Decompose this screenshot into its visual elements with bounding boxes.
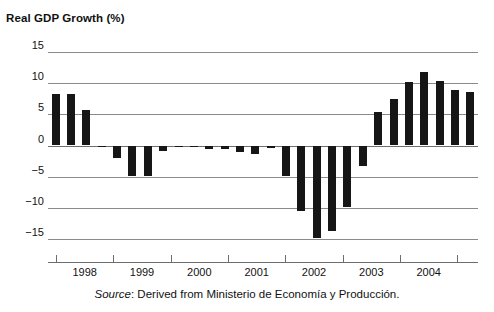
chart-title: Real GDP Growth (%) [6,12,125,24]
y-tick-label: −10 [0,195,44,207]
bar [144,146,152,177]
bar [236,146,244,153]
x-tick [343,255,344,263]
x-tick [457,255,458,263]
chart-figure: Real GDP Growth (%) 151050−5−10−15 Sourc… [0,0,494,312]
x-tick [113,255,114,263]
y-tick-label: 0 [0,133,44,145]
y-tick-label: 10 [0,70,44,82]
bar [267,146,275,149]
x-tick-label: 2000 [187,266,211,278]
x-tick-label: 2002 [302,266,326,278]
bar [359,146,367,166]
x-tick-label: 1998 [72,266,96,278]
y-tick-label: 15 [0,39,44,51]
bar [328,146,336,231]
x-tick-label: 2001 [244,266,268,278]
bar [251,146,259,154]
x-tick-label: 2003 [359,266,383,278]
x-tick [56,255,57,263]
y-tick-label: −5 [0,164,44,176]
bar [390,99,398,145]
bar [205,146,213,150]
y-axis-labels: 151050−5−10−15 [0,36,44,255]
bar [128,146,136,176]
x-tick [171,255,172,263]
x-tick-label: 2004 [416,266,440,278]
bar [313,146,321,239]
plot-area [48,36,478,255]
source-caption: Source: Derived from Ministerio de Econo… [0,288,494,300]
bar [67,94,75,146]
source-body: : Derived from Ministerio de Economía y … [131,288,399,300]
y-tick-label: 5 [0,101,44,113]
bar [175,146,183,148]
bar [190,146,198,148]
bar [436,81,444,145]
bar [159,146,167,151]
bar [405,82,413,146]
bar [466,92,474,145]
x-tick [228,255,229,263]
bar [343,146,351,207]
x-tick [400,255,401,263]
bar [98,146,106,148]
bar [374,112,382,145]
y-tick-label: −15 [0,226,44,238]
bar [113,146,121,159]
bar-series [48,36,478,255]
x-tick [285,255,286,263]
x-tick-label: 1999 [130,266,154,278]
bar [297,146,305,211]
source-label: Source [95,288,131,300]
bar [52,94,60,145]
bar [451,90,459,146]
bar [282,146,290,177]
bar [82,110,90,145]
clipped-header-text [0,0,494,9]
bar [221,146,229,149]
bar [420,72,428,145]
